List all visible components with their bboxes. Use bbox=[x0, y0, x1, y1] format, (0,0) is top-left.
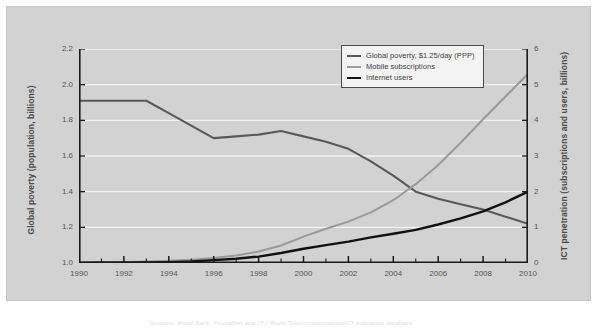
figure-panel: Global poverty (population, billions) IC… bbox=[6, 6, 591, 301]
line-swatch-icon bbox=[347, 77, 361, 79]
legend-item-label: Global poverty, $1.25/day (PPP) bbox=[366, 51, 475, 60]
y-tick-label-left-5: 2.0 bbox=[47, 80, 73, 89]
x-tick-label-8: 2006 bbox=[418, 269, 458, 278]
x-tick-label-3: 1996 bbox=[194, 269, 234, 278]
x-tick-label-9: 2008 bbox=[463, 269, 503, 278]
y-tick-label-right-5: 5 bbox=[534, 80, 560, 89]
caption-strip: Sources: World Bank, PovcalNet and ITU W… bbox=[0, 306, 597, 329]
y-tick-label-left-3: 1.6 bbox=[47, 151, 73, 160]
series-lines bbox=[79, 74, 528, 263]
y-tick-label-right-2: 2 bbox=[534, 187, 560, 196]
y-axis-left-title: Global poverty (population, billions) bbox=[26, 60, 36, 260]
source-caption: Sources: World Bank, PovcalNet and ITU W… bbox=[150, 320, 580, 326]
series-line-0 bbox=[79, 101, 528, 224]
legend-item-label: Mobile subscriptions bbox=[366, 62, 435, 71]
legend-item-1[interactable]: Mobile subscriptions bbox=[347, 61, 475, 72]
x-tick-label-7: 2004 bbox=[373, 269, 413, 278]
y-tick-label-left-1: 1.2 bbox=[47, 222, 73, 231]
series-line-1 bbox=[79, 74, 528, 263]
chart-legend: Global poverty, $1.25/day (PPP)Mobile su… bbox=[341, 45, 484, 88]
y-tick-label-left-4: 1.8 bbox=[47, 115, 73, 124]
y-tick-label-right-4: 4 bbox=[534, 115, 560, 124]
line-swatch-icon bbox=[347, 55, 361, 57]
x-tick-label-4: 1998 bbox=[239, 269, 279, 278]
x-tick-label-6: 2002 bbox=[328, 269, 368, 278]
x-tick-label-1: 1992 bbox=[104, 269, 144, 278]
y-tick-label-left-2: 1.4 bbox=[47, 187, 73, 196]
y-tick-label-right-3: 3 bbox=[534, 151, 560, 160]
y-axis-right-title: ICT penetration (subscriptions and users… bbox=[559, 60, 569, 260]
x-tick-label-10: 2010 bbox=[508, 269, 548, 278]
legend-item-0[interactable]: Global poverty, $1.25/day (PPP) bbox=[347, 50, 475, 61]
y-tick-label-left-0: 1.0 bbox=[47, 258, 73, 267]
x-tick-label-5: 2000 bbox=[284, 269, 324, 278]
legend-item-label: Internet users bbox=[366, 73, 413, 82]
x-tick-label-0: 1990 bbox=[59, 269, 99, 278]
y-tick-label-right-0: 0 bbox=[534, 258, 560, 267]
y-tick-label-right-6: 6 bbox=[534, 44, 560, 53]
line-swatch-icon bbox=[347, 66, 361, 68]
x-tick-label-2: 1994 bbox=[149, 269, 189, 278]
y-tick-label-right-1: 1 bbox=[534, 222, 560, 231]
legend-item-2[interactable]: Internet users bbox=[347, 72, 475, 83]
y-tick-label-left-6: 2.2 bbox=[47, 44, 73, 53]
